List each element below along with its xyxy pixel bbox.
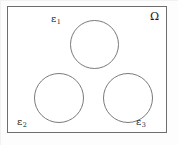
- inclusion-label-eps2-base: ε: [17, 116, 22, 127]
- inclusion-circle-eps3: [103, 73, 153, 123]
- inclusion-label-eps3-subscript: 3: [142, 121, 146, 129]
- domain-boundary-rectangle: [7, 6, 167, 133]
- figure-canvas: ε1 ε2 ε3 Ω: [0, 0, 178, 145]
- omega-label: Ω: [150, 11, 159, 22]
- inclusion-label-eps3-base: ε: [136, 116, 141, 127]
- inclusion-label-eps1-base: ε: [51, 13, 56, 24]
- inclusion-label-eps1: ε1: [51, 14, 61, 24]
- inclusion-label-eps2: ε2: [17, 117, 27, 127]
- inclusion-circle-eps1: [70, 20, 119, 69]
- inclusion-label-eps3: ε3: [136, 117, 146, 127]
- inclusion-label-eps1-subscript: 1: [57, 18, 61, 26]
- inclusion-circle-eps2: [34, 73, 84, 123]
- inclusion-label-eps2-subscript: 2: [23, 121, 27, 129]
